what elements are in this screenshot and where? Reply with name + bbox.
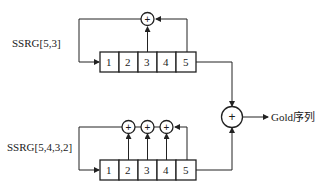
top-generator: SSRG[5,3] 1 2 3 4 5 +: [12, 13, 232, 107]
bottom-xor-2-icon: +: [141, 121, 154, 134]
top-cell-2-label: 2: [125, 56, 131, 68]
top-tap-5-arrow: [156, 19, 187, 52]
top-cell-1-label: 1: [106, 56, 112, 68]
bottom-cell-5-label: 5: [183, 164, 189, 176]
svg-text:+: +: [145, 14, 151, 25]
bottom-cell-1-label: 1: [106, 164, 112, 176]
bottom-shift-register: 1 2 3 4 5: [100, 160, 196, 180]
top-output-arrow: [196, 62, 232, 106]
bottom-cell-3-label: 3: [144, 164, 150, 176]
bottom-xor-1-icon: +: [122, 121, 135, 134]
top-shift-register: 1 2 3 4 5: [100, 52, 196, 72]
top-xor-icon: +: [141, 13, 154, 26]
svg-text:+: +: [228, 110, 235, 124]
top-generator-label: SSRG[5,3]: [12, 37, 61, 49]
svg-text:+: +: [126, 122, 132, 133]
bottom-output-arrow: [196, 128, 232, 170]
gold-sequence-diagram: SSRG[5,3] 1 2 3 4 5 + SSRG[5,4,3,2]: [0, 0, 317, 186]
bottom-generator-label: SSRG[5,4,3,2]: [7, 141, 72, 153]
bottom-xor-3-icon: +: [160, 121, 173, 134]
top-cell-5-label: 5: [183, 56, 189, 68]
svg-text:+: +: [164, 122, 170, 133]
bottom-tap-5-arrow: [175, 127, 187, 160]
combiner-xor-icon: +: [222, 107, 243, 128]
top-cell-4-label: 4: [163, 56, 169, 68]
svg-text:+: +: [145, 122, 151, 133]
bottom-cell-2-label: 2: [125, 164, 131, 176]
bottom-generator: SSRG[5,4,3,2] 1 2 3 4 5 + +: [7, 121, 232, 181]
top-cell-3-label: 3: [144, 56, 150, 68]
bottom-cell-4-label: 4: [163, 164, 169, 176]
gold-sequence-label: Gold序列: [271, 110, 315, 123]
combiner: + Gold序列: [222, 107, 316, 128]
